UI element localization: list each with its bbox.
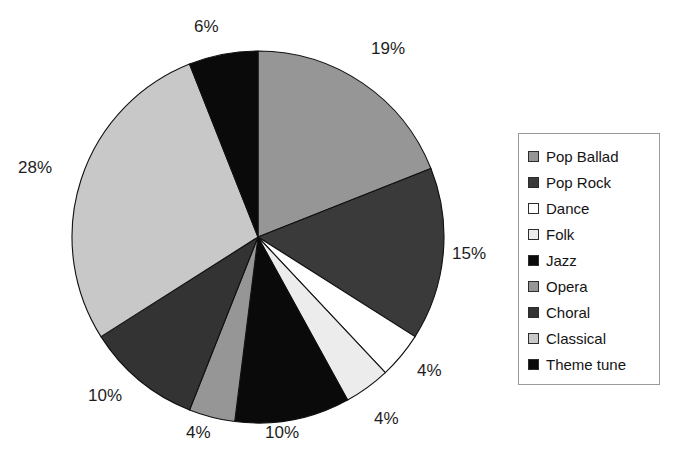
legend-item-label: Jazz xyxy=(546,253,577,268)
legend-item-label: Choral xyxy=(546,305,590,320)
pie-value-label: 10% xyxy=(88,387,122,404)
legend-item: Jazz xyxy=(528,247,653,273)
legend-item-label: Folk xyxy=(546,227,574,242)
legend-swatch-icon xyxy=(528,203,539,214)
legend-swatch-icon xyxy=(528,281,539,292)
legend-item: Theme tune xyxy=(528,351,653,377)
legend-swatch-icon xyxy=(528,151,539,162)
pie-slice-group xyxy=(72,51,444,423)
legend-item-label: Pop Rock xyxy=(546,175,611,190)
pie-value-label: 19% xyxy=(371,40,405,57)
legend-swatch-icon xyxy=(528,255,539,266)
pie-value-label: 4% xyxy=(417,362,442,379)
legend-item: Choral xyxy=(528,299,653,325)
pie-value-label: 28% xyxy=(18,159,52,176)
legend-item-label: Classical xyxy=(546,331,606,346)
legend-item: Pop Rock xyxy=(528,169,653,195)
legend-swatch-icon xyxy=(528,177,539,188)
legend-swatch-icon xyxy=(528,333,539,344)
legend-swatch-icon xyxy=(528,307,539,318)
pie-value-label: 6% xyxy=(194,18,219,35)
legend-item: Dance xyxy=(528,195,653,221)
pie-value-label: 4% xyxy=(186,424,211,441)
chart-legend: Pop BalladPop RockDanceFolkJazzOperaChor… xyxy=(518,133,660,385)
legend-item: Opera xyxy=(528,273,653,299)
pie-chart-figure: 6%19%15%4%4%10%4%10%28% Pop BalladPop Ro… xyxy=(0,0,688,474)
legend-item: Folk xyxy=(528,221,653,247)
legend-item-label: Theme tune xyxy=(546,357,626,372)
legend-swatch-icon xyxy=(528,359,539,370)
legend-item-label: Opera xyxy=(546,279,588,294)
pie-value-label: 4% xyxy=(374,410,399,427)
legend-item: Pop Ballad xyxy=(528,143,653,169)
legend-item: Classical xyxy=(528,325,653,351)
legend-item-label: Dance xyxy=(546,201,589,216)
legend-swatch-icon xyxy=(528,229,539,240)
pie-value-label: 10% xyxy=(265,424,299,441)
legend-item-label: Pop Ballad xyxy=(546,149,619,164)
pie-value-label: 15% xyxy=(452,245,486,262)
